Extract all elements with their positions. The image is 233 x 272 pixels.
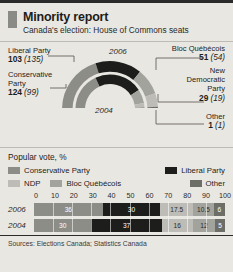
legend-swatch-other	[190, 180, 202, 187]
legend-item-liberal: Liberal Party	[165, 165, 225, 176]
seats-donut: 2006 2004	[62, 56, 158, 118]
page-title: Minority report	[23, 10, 225, 24]
axis-tick-20: 20	[70, 191, 78, 200]
axis-tick-90: 90	[202, 191, 210, 200]
legend-swatch-conservative	[8, 167, 20, 174]
legend-label-conservative: Conservative Party	[24, 165, 90, 176]
bar-seg-2004-ndp: 16	[162, 219, 193, 232]
bottom-rule	[0, 235, 233, 236]
bar-seg-2004-other: 5	[215, 219, 225, 232]
bar-track-2006: 36 30 17.5 10.5 6	[34, 203, 225, 216]
axis-tick-60: 60	[145, 191, 153, 200]
legend-swatch-liberal	[165, 167, 177, 174]
bar-seg-2004-bloc: 12	[193, 219, 216, 232]
legend: Conservative Party Liberal Party NDP Blo…	[8, 165, 225, 189]
brand-mark-icon	[8, 11, 17, 28]
axis-tick-30: 30	[89, 191, 97, 200]
axis-tick-70: 70	[164, 191, 172, 200]
bar-label-2004: 2004	[8, 221, 34, 230]
axis-tick-50: 50	[127, 191, 135, 200]
axis-tick-100: 100	[219, 191, 231, 200]
bar-seg-2006-ndp: 17.5	[160, 203, 193, 216]
infographic-card: Minority report Canada's election: House…	[0, 0, 233, 272]
axis-tick-0: 0	[34, 191, 38, 200]
legend-item-other: Other	[190, 178, 226, 189]
axis-tick-40: 40	[108, 191, 116, 200]
bar-chart: 2006 36 30 17.5 10.5 6 2004 30	[8, 203, 225, 232]
bar-seg-2004-conservative: 30	[34, 219, 91, 232]
legend-item-conservative: Conservative Party	[8, 165, 90, 176]
header: Minority report Canada's election: House…	[8, 3, 225, 36]
bar-seg-2006-conservative: 36	[34, 203, 103, 216]
popular-vote-title: Popular vote, %	[8, 152, 225, 162]
legend-swatch-ndp	[8, 180, 20, 187]
bar-label-2006: 2006	[8, 205, 34, 214]
legend-swatch-bloc	[50, 180, 62, 187]
legend-label-other: Other	[206, 178, 226, 189]
seats-chart: Liberal Party 103 (135) Conservative Par…	[8, 42, 225, 142]
page-subtitle: Canada's election: House of Commons seat…	[23, 25, 225, 36]
sources-note: Sources: Elections Canada; Statistics Ca…	[8, 240, 225, 247]
legend-label-ndp: NDP	[24, 178, 40, 189]
legend-row-2: NDP Bloc Québécois Other	[8, 178, 225, 189]
legend-item-bloc: Bloc Québécois	[50, 178, 121, 189]
bar-row-2006: 2006 36 30 17.5 10.5 6	[8, 203, 225, 216]
axis-tick-80: 80	[183, 191, 191, 200]
section-divider	[0, 147, 233, 148]
bar-seg-2004-liberal: 37	[91, 219, 162, 232]
legend-row-1: Conservative Party Liberal Party	[8, 165, 225, 176]
bar-row-2004: 2004 30 37 16 12 5	[8, 219, 225, 232]
bar-track-2004: 30 37 16 12 5	[34, 219, 225, 232]
bar-seg-2006-bloc: 10.5	[193, 203, 213, 216]
x-axis: 0 10 20 30 40 50 60 70 80 90 100	[36, 191, 225, 202]
legend-label-bloc: Bloc Québécois	[66, 178, 121, 189]
legend-item-ndp: NDP	[8, 178, 40, 189]
axis-tick-10: 10	[51, 191, 59, 200]
popular-vote-section: Popular vote, % Conservative Party Liber…	[8, 152, 225, 247]
bar-seg-2006-other: 6	[214, 203, 225, 216]
donut-year-inner: 2004	[95, 106, 113, 115]
donut-year-outer: 2006	[109, 47, 127, 56]
legend-label-liberal: Liberal Party	[181, 165, 225, 176]
